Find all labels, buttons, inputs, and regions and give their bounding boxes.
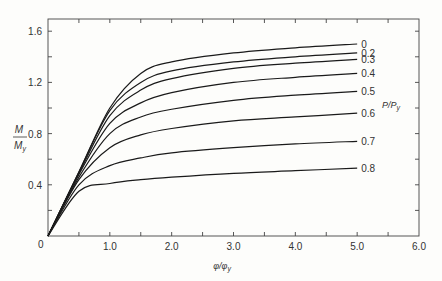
series-label: 0.3 xyxy=(361,54,375,65)
curve-p-0.7 xyxy=(48,141,357,236)
x-tick-label: 4.0 xyxy=(288,241,302,252)
series-label: 0.7 xyxy=(361,136,375,147)
x-tick-label: 1.0 xyxy=(103,241,117,252)
y-tick-label: 1.6 xyxy=(28,26,42,37)
legend-title: P/Py xyxy=(382,100,401,112)
origin-label: 0 xyxy=(38,239,44,250)
x-tick-label: 5.0 xyxy=(350,241,364,252)
y-tick-label: 0.8 xyxy=(28,129,42,140)
series-label: 0.4 xyxy=(361,68,375,79)
x-tick-label: 3.0 xyxy=(227,241,241,252)
series-label: 0.5 xyxy=(361,86,375,97)
svg-text:M: M xyxy=(15,124,24,135)
y-tick-label: 0.4 xyxy=(28,180,42,191)
curve-p-0.2 xyxy=(48,53,357,236)
curves xyxy=(48,44,357,236)
series-label: 0.8 xyxy=(361,163,375,174)
y-tick-label: 1.2 xyxy=(28,77,42,88)
x-tick-label: 6.0 xyxy=(412,241,426,252)
curve-p-0.8 xyxy=(48,168,357,236)
y-axis-label: M My xyxy=(13,124,27,153)
curve-p-0.4 xyxy=(48,73,357,236)
curve-p-0.5 xyxy=(48,91,357,236)
x-axis-label: φ/φy xyxy=(213,261,231,273)
x-tick-label: 2.0 xyxy=(165,241,179,252)
series-labels: 00.20.30.40.50.60.70.8 xyxy=(361,39,375,174)
series-label: 0.6 xyxy=(361,108,375,119)
svg-text:My: My xyxy=(14,140,26,153)
moment-curvature-chart: 1.02.03.04.05.06.00.40.81.21.6 00.20.30.… xyxy=(0,0,442,281)
